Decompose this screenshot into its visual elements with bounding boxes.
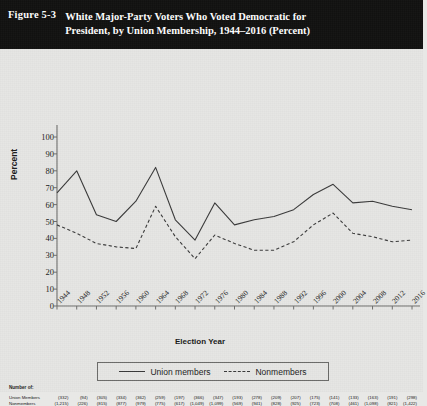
figure-title-line-2: President, by Union Membership, 1944–201… (65, 24, 310, 38)
footnote-row: Nonmembers(1,215)(226)(815)(877)(979)(77… (9, 400, 417, 406)
footnote-cell: (877) (107, 400, 126, 406)
chart-area: Percent 1009080706050403020100 194419481… (0, 49, 423, 349)
legend-item: Union members (119, 367, 210, 377)
footnote-cell: (723) (301, 400, 320, 406)
chart-legend: Union membersNonmembers (97, 362, 329, 381)
legend-swatch-dashed (224, 371, 250, 372)
footnote-cell: (461) (339, 400, 358, 406)
footnote-title: Number of: (9, 385, 34, 390)
footnote-table: Union Members(332)(94)(305)(334)(362)(25… (9, 394, 417, 406)
figure-title: White Major-Party Voters Who Voted Democ… (65, 10, 310, 38)
footnote-cell: (1,099) (204, 400, 223, 406)
footnote-cell: (941) (243, 400, 262, 406)
footnote-row-label: Nonmembers (9, 400, 49, 406)
footnote-cell: (617) (165, 400, 184, 406)
figure-number: Figure 5-3 (8, 9, 56, 20)
footnote-cell: (1,049) (185, 400, 204, 406)
footnote-cell: (775) (146, 400, 165, 406)
footnote-cell: (925) (281, 400, 300, 406)
series-line-union-members (57, 167, 412, 240)
figure-body: Percent 1009080706050403020100 194419481… (0, 49, 423, 392)
footnote-cell: (708) (320, 400, 339, 406)
footnote-cell: (815) (88, 400, 107, 406)
footnote-cell: (1,215) (49, 400, 68, 406)
figure-header: Figure 5-3 White Major-Party Voters Who … (0, 0, 423, 49)
legend-swatch-solid (119, 371, 145, 372)
footnote-cell: (979) (126, 400, 145, 406)
x-axis-title: Election Year (175, 337, 225, 346)
footnote-cell: (828) (262, 400, 281, 406)
series-line-nonmembers (57, 206, 412, 258)
footnote-cell: (226) (68, 400, 87, 406)
legend-label: Nonmembers (255, 367, 306, 377)
footnote-cell: (569) (223, 400, 242, 406)
footnote-cell: (821) (378, 400, 397, 406)
figure-title-line-1: White Major-Party Voters Who Voted Democ… (65, 10, 310, 24)
legend-item: Nonmembers (224, 367, 306, 377)
legend-label: Union members (150, 367, 210, 377)
footnote-cell: (1,098) (359, 400, 378, 406)
footnote-cell: (1,422) (397, 400, 417, 406)
